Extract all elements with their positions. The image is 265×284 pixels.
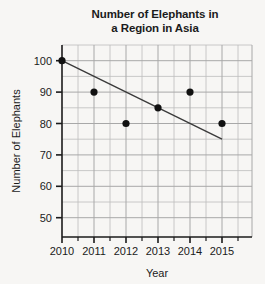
data-point <box>122 120 129 127</box>
y-tick-label-100: 100 <box>34 55 52 67</box>
y-tick-label-50: 50 <box>40 212 52 224</box>
data-point <box>154 104 161 111</box>
y-tick-label-80: 80 <box>40 118 52 130</box>
x-tick-label-2013: 2013 <box>146 245 170 257</box>
plot-area: 100 90 80 70 60 50 2010 2011 2012 2013 2… <box>0 0 265 284</box>
y-axis-label: Number of Elephants <box>10 89 22 193</box>
x-tick-label-2010: 2010 <box>50 245 74 257</box>
data-point <box>90 89 97 96</box>
x-tick-label-2012: 2012 <box>114 245 138 257</box>
elephant-population-chart: Number of Elephants in a Region in Asia <box>0 0 265 284</box>
x-tick-label-2011: 2011 <box>82 245 106 257</box>
grid-major-vertical <box>94 45 252 237</box>
y-tick-label-90: 90 <box>40 86 52 98</box>
data-point <box>186 89 193 96</box>
data-point <box>58 57 65 64</box>
x-axis-label: Year <box>146 267 169 279</box>
y-tick-label-60: 60 <box>40 180 52 192</box>
y-axis-ticks <box>56 61 62 218</box>
x-tick-label-2015: 2015 <box>210 245 234 257</box>
y-tick-label-70: 70 <box>40 149 52 161</box>
x-tick-label-2014: 2014 <box>178 245 202 257</box>
data-point <box>218 120 225 127</box>
